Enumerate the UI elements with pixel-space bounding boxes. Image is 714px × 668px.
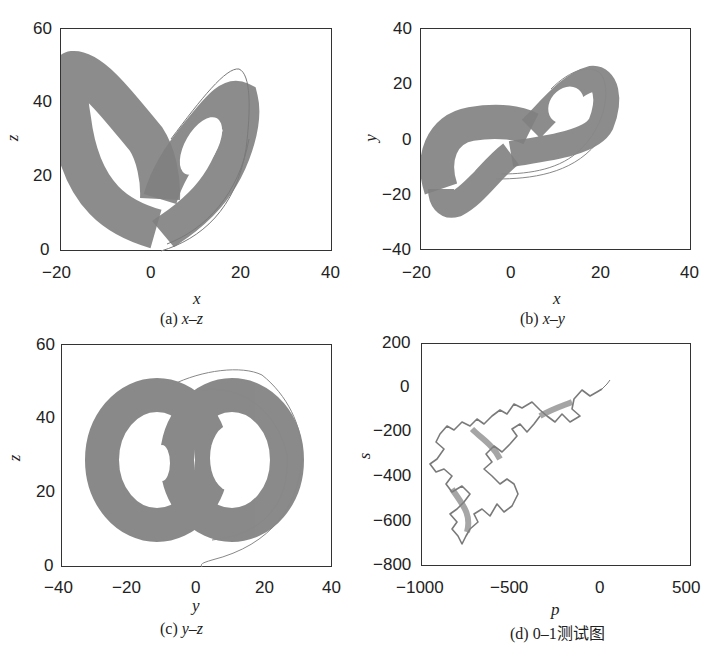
ytick-d-4: 0 xyxy=(400,377,409,397)
plot-frame-d xyxy=(421,343,691,566)
plot-area-b xyxy=(421,29,692,251)
ytick-b-0: −40 xyxy=(382,240,411,260)
xtick-a-3: 40 xyxy=(321,263,340,283)
xlabel-d: p xyxy=(551,600,560,620)
xtick-b-1: 0 xyxy=(506,263,515,283)
xtick-c-3: 20 xyxy=(255,578,274,598)
xtick-d-1: −500 xyxy=(490,578,528,598)
ytick-b-4: 40 xyxy=(393,19,412,39)
ytick-d-1: −600 xyxy=(373,511,411,531)
caption-a: (a) x–z xyxy=(160,310,203,328)
caption-a-var: x–z xyxy=(182,310,203,327)
xtick-c-1: −20 xyxy=(112,578,141,598)
caption-d-var: 0–1测试图 xyxy=(533,625,605,642)
ylabel-c: z xyxy=(5,455,25,462)
plot-frame-c xyxy=(61,344,332,567)
xtick-a-0: −20 xyxy=(42,263,71,283)
ytick-d-3: −200 xyxy=(373,421,411,441)
xtick-b-2: 20 xyxy=(591,263,610,283)
ytick-b-3: 20 xyxy=(393,74,412,94)
xtick-c-2: 0 xyxy=(191,578,200,598)
ytick-d-2: −400 xyxy=(373,466,411,486)
caption-a-prefix: (a) xyxy=(160,310,178,327)
ytick-b-2: 0 xyxy=(402,130,411,150)
xlabel-c: y xyxy=(192,596,200,616)
ytick-a-1: 20 xyxy=(33,166,52,186)
ylabel-a: z xyxy=(3,135,23,142)
xtick-c-0: −40 xyxy=(44,578,73,598)
plot-area-a xyxy=(61,29,333,252)
plot-area-d xyxy=(422,344,692,567)
ytick-c-3: 60 xyxy=(36,335,55,355)
ytick-c-0: 0 xyxy=(44,556,53,576)
plot-frame-a xyxy=(60,28,332,251)
caption-b: (b) x–y xyxy=(520,310,565,328)
ytick-a-0: 0 xyxy=(40,240,49,260)
xtick-c-4: 40 xyxy=(322,578,341,598)
ytick-d-5: 200 xyxy=(382,333,410,353)
xtick-a-2: 20 xyxy=(231,263,250,283)
ytick-b-1: −20 xyxy=(382,185,411,205)
ytick-a-3: 60 xyxy=(33,19,52,39)
ytick-a-2: 40 xyxy=(33,92,52,112)
ytick-c-1: 20 xyxy=(36,482,55,502)
caption-d: (d) 0–1测试图 xyxy=(510,620,605,644)
xtick-d-3: 500 xyxy=(672,578,700,598)
xlabel-a: x xyxy=(193,289,201,309)
xlabel-b: x xyxy=(553,289,561,309)
plot-frame-b xyxy=(420,28,691,250)
xtick-d-2: 0 xyxy=(595,578,604,598)
xtick-a-1: 0 xyxy=(146,263,155,283)
caption-c-var: y–z xyxy=(182,620,203,637)
xtick-b-0: −20 xyxy=(402,263,431,283)
ylabel-b: y xyxy=(361,134,381,142)
ytick-d-0: −800 xyxy=(373,555,411,575)
caption-d-prefix: (d) xyxy=(510,625,529,642)
caption-b-var: x–y xyxy=(543,310,565,327)
caption-c-prefix: (c) xyxy=(160,620,178,637)
plot-area-c xyxy=(62,345,333,568)
xtick-d-0: −1000 xyxy=(396,578,444,598)
caption-c: (c) y–z xyxy=(160,620,203,638)
xtick-b-3: 40 xyxy=(680,263,699,283)
ylabel-d: s xyxy=(355,453,375,460)
caption-b-prefix: (b) xyxy=(520,310,539,327)
ytick-c-2: 40 xyxy=(36,408,55,428)
